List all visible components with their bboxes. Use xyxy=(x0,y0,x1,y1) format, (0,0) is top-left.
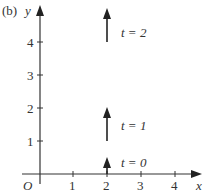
y-axis-label: y xyxy=(23,3,31,18)
vector-t2: t = 2 xyxy=(103,8,147,42)
vector-t1: t = 1 xyxy=(103,107,146,141)
x-axis-arrowhead-icon xyxy=(191,170,202,178)
arrowhead-icon xyxy=(103,8,111,19)
arrowhead-icon xyxy=(103,157,111,168)
arrowhead-icon xyxy=(103,107,111,118)
vector-label: t = 2 xyxy=(121,25,147,40)
x-tick-label: 1 xyxy=(69,178,76,192)
vector-label: t = 1 xyxy=(121,118,146,133)
y-tick-label: 2 xyxy=(27,101,34,116)
y-tick-label: 1 xyxy=(27,134,34,149)
x-tick-label: 4 xyxy=(171,178,178,192)
vector-t0: t = 0 xyxy=(103,155,147,174)
diagram-canvas: (b) y x O 1 2 3 4 1 2 3 4 t = 0 t xyxy=(0,0,206,192)
y-axis-arrowhead-icon xyxy=(36,5,44,16)
vector-label: t = 0 xyxy=(121,155,147,170)
x-axis-label: x xyxy=(195,178,202,192)
y-tick-label: 4 xyxy=(27,35,34,50)
y-tick-label: 3 xyxy=(27,68,34,83)
origin-label: O xyxy=(23,178,33,192)
panel-label: (b) xyxy=(2,3,17,18)
x-tick-label: 3 xyxy=(137,178,144,192)
x-tick-label: 2 xyxy=(103,178,110,192)
